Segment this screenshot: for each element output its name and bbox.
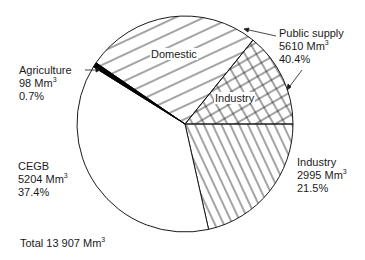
label-agriculture: Agriculture 98 Mm3 0.7%: [19, 64, 72, 103]
label-public-supply: Public supply 5610 Mm3 40.4%: [279, 27, 344, 66]
label-industry-public: Industry: [214, 92, 255, 104]
label-cegb: CEGB 5204 Mm3 37.4%: [18, 160, 68, 199]
total-label: Total 13 907 Mm3: [20, 237, 105, 250]
label-industry: Industry 2995 Mm3 21.5%: [297, 156, 347, 195]
label-domestic: Domestic: [150, 48, 198, 60]
